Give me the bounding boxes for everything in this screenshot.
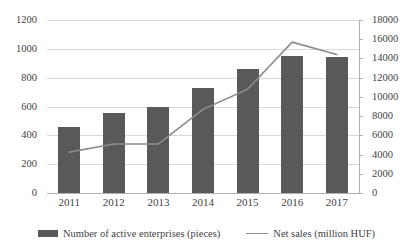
y-axis-right-tick-label: 10000 [364, 92, 408, 103]
y-axis-right-tick-mark [359, 78, 363, 79]
x-axis-tick-label-2012: 2012 [103, 196, 125, 208]
y-axis-right-tick-mark [359, 116, 363, 117]
y-axis-right-tick-label: 16000 [364, 34, 408, 45]
y-axis-right: 0200040006000800010000120001400016000180… [364, 20, 408, 193]
x-axis-tick-label-2016: 2016 [281, 196, 303, 208]
y-axis-right-tick-mark [359, 20, 363, 21]
x-axis-tick-label-2017: 2017 [326, 196, 348, 208]
y-axis-left-tick-label: 400 [0, 130, 44, 141]
y-axis-left-tick-label: 800 [0, 72, 44, 83]
legend-item-label: Net sales (million HUF) [273, 228, 375, 239]
chart-legend: Number of active enterprises (pieces)Net… [0, 224, 413, 242]
y-axis-right-tick-label: 12000 [364, 72, 408, 83]
y-axis-right-tick-label: 18000 [364, 15, 408, 26]
x-axis: 2011201220132014201520162017 [47, 196, 359, 214]
y-axis-right-tick-label: 8000 [364, 111, 408, 122]
y-axis-left-tick-label: 0 [0, 188, 44, 199]
y-axis-left-tick-label: 1200 [0, 15, 44, 26]
y-axis-right-tick-label: 2000 [364, 169, 408, 180]
y-axis-right-tick-mark [359, 97, 363, 98]
y-axis-right-tick-mark [359, 155, 363, 156]
line-series [47, 20, 359, 193]
y-axis-right-tick-label: 14000 [364, 53, 408, 64]
y-axis-right-tick-mark [359, 174, 363, 175]
y-axis-right-tick-mark [359, 135, 363, 136]
net-sales-line [69, 42, 336, 152]
y-axis-left: 020040060080010001200 [0, 20, 44, 193]
legend-bar-swatch-icon [38, 230, 58, 237]
x-axis-tick-label-2014: 2014 [192, 196, 214, 208]
chart-container: 020040060080010001200 020004000600080001… [0, 0, 413, 248]
y-axis-right-tick-label: 6000 [364, 130, 408, 141]
y-axis-right-tick-label: 4000 [364, 149, 408, 160]
plot-area [47, 20, 359, 193]
right-axis-line [359, 20, 360, 194]
axis-baseline [47, 193, 359, 194]
x-axis-tick-label-2013: 2013 [147, 196, 169, 208]
y-axis-left-tick-label: 1000 [0, 44, 44, 55]
y-axis-right-tick-mark [359, 58, 363, 59]
legend-item-2[interactable]: Net sales (million HUF) [246, 228, 375, 239]
x-axis-tick-label-2015: 2015 [237, 196, 259, 208]
legend-line-swatch-icon [246, 233, 268, 234]
y-axis-right-tick-mark [359, 193, 363, 194]
x-axis-tick-label-2011: 2011 [58, 196, 80, 208]
y-axis-right-tick-mark [359, 39, 363, 40]
legend-item-label: Number of active enterprises (pieces) [63, 228, 220, 239]
y-axis-right-tick-label: 0 [364, 188, 408, 199]
y-axis-left-tick-label: 200 [0, 159, 44, 170]
legend-item-1[interactable]: Number of active enterprises (pieces) [38, 228, 220, 239]
y-axis-left-tick-label: 600 [0, 101, 44, 112]
